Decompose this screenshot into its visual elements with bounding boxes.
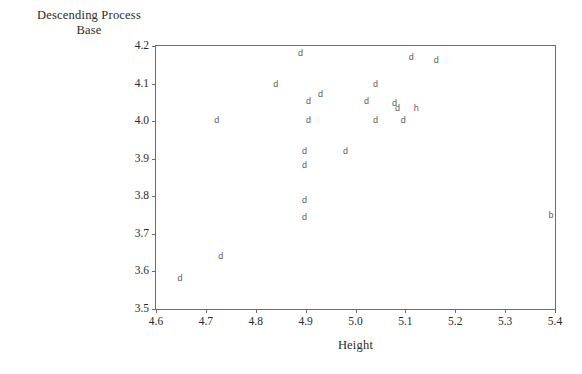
y-tick-label: 4.1 [135, 78, 149, 90]
y-axis-title-line-2: Base [14, 23, 164, 38]
x-tick-label: 5.1 [398, 316, 412, 328]
data-points-layer: ddddddddddddddddddddhdb [156, 46, 555, 309]
x-tick-mark [455, 309, 456, 313]
data-point-marker: d [318, 90, 323, 99]
data-point-marker: d [273, 79, 278, 88]
x-tick-label: 5.3 [498, 316, 512, 328]
x-tick-mark [256, 309, 257, 313]
x-tick-label: 4.8 [249, 316, 263, 328]
x-tick-mark [156, 309, 157, 313]
x-tick-mark [555, 309, 556, 313]
x-tick-label: 4.7 [199, 316, 213, 328]
x-tick-mark [356, 309, 357, 313]
y-tick-label: 4.0 [135, 115, 149, 127]
data-point-marker: d [364, 97, 369, 106]
x-tick-label: 5.2 [448, 316, 462, 328]
y-axis-title: Descending Process Base [14, 8, 164, 38]
data-point-marker: d [218, 252, 223, 261]
x-tick-mark [206, 309, 207, 313]
y-tick-label: 4.2 [135, 40, 149, 52]
data-point-marker: d [395, 104, 400, 113]
data-point-marker: d [409, 52, 414, 61]
data-point-marker: d [373, 116, 378, 125]
data-point-marker: d [343, 146, 348, 155]
y-tick-label: 3.9 [135, 153, 149, 165]
data-point-marker: d [401, 116, 406, 125]
data-point-marker: d [373, 79, 378, 88]
data-point-marker: d [302, 196, 307, 205]
x-tick-mark [505, 309, 506, 313]
x-tick-mark [306, 309, 307, 313]
y-axis-title-line-1: Descending Process [14, 8, 164, 23]
data-point-marker: d [306, 97, 311, 106]
x-tick-mark [405, 309, 406, 313]
data-point-marker: d [302, 146, 307, 155]
y-tick-label: 3.8 [135, 191, 149, 203]
x-tick-label: 5.4 [548, 316, 562, 328]
x-tick-label: 4.6 [149, 316, 163, 328]
data-point-marker: d [214, 116, 219, 125]
x-tick-label: 4.9 [298, 316, 312, 328]
x-axis-title: Height [155, 338, 556, 352]
plot-area: 3.53.63.73.83.94.04.14.2 4.64.74.84.95.0… [155, 45, 556, 310]
y-tick-label: 3.6 [135, 266, 149, 278]
data-point-marker: d [302, 160, 307, 169]
data-point-marker: d [177, 274, 182, 283]
data-point-marker: d [306, 116, 311, 125]
data-point-marker: h [414, 104, 419, 113]
y-tick-label: 3.7 [135, 228, 149, 240]
data-point-marker: d [298, 48, 303, 57]
data-point-marker: b [548, 211, 553, 220]
y-tick-label: 3.5 [135, 303, 149, 315]
data-point-marker: d [302, 212, 307, 221]
data-point-marker: d [434, 55, 439, 64]
x-tick-label: 5.0 [348, 316, 362, 328]
scatter-plot-figure: Descending Process Base 3.53.63.73.83.94… [0, 0, 582, 374]
